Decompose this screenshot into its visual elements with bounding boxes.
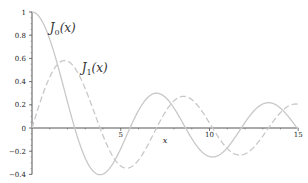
- curve-labels: J0(x)J1(x): [47, 21, 108, 78]
- y-tick-label: 0.8: [15, 32, 26, 40]
- y-tick-label: 1: [22, 9, 26, 17]
- curve-j0x: [32, 12, 298, 175]
- x-tick-label: 5: [119, 131, 123, 139]
- y-tick-label: 0.6: [15, 55, 27, 63]
- x-tick-label: 15: [294, 131, 303, 139]
- curves: [32, 12, 298, 175]
- bessel-chart: 10.80.60.40.20−0.2−0.451015x J0(x)J1(x): [0, 0, 308, 183]
- axes: [32, 12, 298, 174]
- curve-label-0: J0(x): [47, 21, 76, 37]
- x-tick-label: 10: [205, 131, 214, 139]
- x-axis-label: x: [163, 136, 168, 145]
- y-tick-label: 0: [22, 125, 26, 133]
- y-tick-label: −0.4: [9, 171, 27, 179]
- curve-label-1: J1(x): [79, 61, 108, 77]
- y-tick-label: −0.2: [9, 148, 26, 156]
- y-tick-label: 0.2: [15, 101, 26, 109]
- y-tick-label: 0.4: [15, 78, 27, 86]
- curve-j1x: [32, 61, 298, 169]
